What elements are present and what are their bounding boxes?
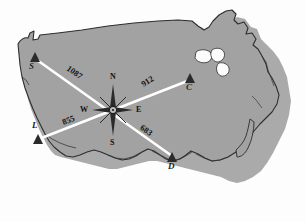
city-label-L: L <box>32 121 38 130</box>
map-figure: S C L D 1087 912 855 683 N S E W <box>0 0 306 221</box>
compass-west-label: W <box>80 106 88 114</box>
city-label-C: C <box>186 83 192 92</box>
city-label-D: D <box>168 162 175 171</box>
compass-east-label: E <box>136 106 141 114</box>
compass-north-label: N <box>110 73 116 81</box>
compass-south-label: S <box>110 139 114 147</box>
map-canvas <box>0 0 306 221</box>
city-label-S: S <box>29 62 34 71</box>
